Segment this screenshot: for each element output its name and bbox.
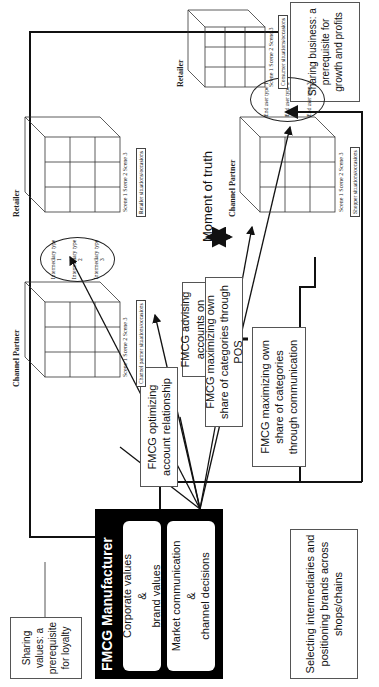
retailer-cube-lower: [180, 2, 280, 102]
lower-channel-partner-title: Channel Partner: [228, 159, 237, 217]
lower-retailer-title: Retailer: [176, 59, 185, 87]
action-maximizing-pos: FMCG maximizing own share of categories …: [205, 277, 243, 427]
market-communication-channel: Market communication & channel decisions: [167, 521, 215, 671]
channel-partner-cube-lower: [230, 112, 350, 232]
retailer-cube-upper: [15, 112, 135, 232]
channel-partner-cube-upper: [15, 277, 135, 397]
moment-of-truth-label: Moment of truth: [200, 151, 215, 242]
manufacturer-title: FMCG Manufacturer: [99, 537, 115, 671]
selecting-intermediaries-box: Selecting intermediaries and positioning…: [290, 529, 358, 679]
intermediaries-ellipse: Intermediary type 1 Intermediary type 2 …: [40, 237, 115, 282]
corporate-brand-values: Corporate values & brand values: [123, 521, 161, 671]
action-maximizing-communication: FMCG maximizing own share of categories …: [252, 327, 306, 467]
upper-channel-partner-title: Channel Partner: [12, 329, 21, 387]
diagram-canvas: Sharing values: a prerequisite for loyal…: [0, 0, 379, 687]
upper-retailer-title: Retailer: [12, 189, 21, 217]
fmcg-manufacturer-block: FMCG Manufacturer Corporate values & bra…: [95, 509, 223, 679]
sharing-values-callout: Sharing values: a prerequisite for loyal…: [10, 617, 82, 679]
